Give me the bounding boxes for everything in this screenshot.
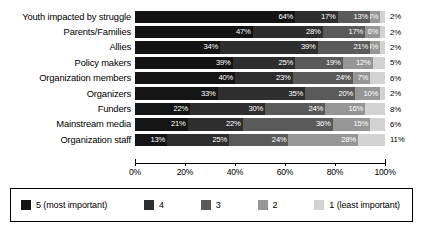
segment-value-label: 15% xyxy=(353,120,368,128)
legend-label: 4 xyxy=(159,200,164,210)
bar-segment: 28% xyxy=(253,26,323,38)
category-label: Policy makers xyxy=(0,58,135,68)
bar-segment: 4% xyxy=(370,11,380,23)
x-axis-tick-label: 40% xyxy=(227,167,244,177)
segment-value-label: 25% xyxy=(212,136,227,144)
segment-value-label: 30% xyxy=(248,105,263,113)
legend-item: 3 xyxy=(201,200,221,210)
bar-segment: 7% xyxy=(353,72,371,84)
legend-swatch xyxy=(21,200,31,210)
legend-item: 5 (most important) xyxy=(21,200,107,210)
segment-value-label: 22% xyxy=(173,105,188,113)
chart-row: Organization members40%23%24%7%6% xyxy=(0,71,423,86)
segment-value-label: 33% xyxy=(201,90,216,98)
x-axis-tick-label: 100% xyxy=(374,167,395,177)
bar-track: 34%39%21%4% xyxy=(135,41,385,53)
last-segment-value-label: 2% xyxy=(385,43,421,52)
segment-value-label: 24% xyxy=(272,136,287,144)
category-label: Organization staff xyxy=(0,135,135,145)
segment-value-label: 39% xyxy=(301,43,316,51)
bar-segment: 19% xyxy=(295,57,343,69)
bar-segment: 24% xyxy=(265,103,325,115)
bar-segment: 21% xyxy=(135,118,188,130)
bar-segment: 13% xyxy=(338,11,371,23)
legend-label: 5 (most important) xyxy=(36,200,107,210)
last-segment-value-label: 2% xyxy=(385,28,421,37)
bar-segment: 28% xyxy=(288,134,357,146)
x-axis-tick xyxy=(185,163,186,166)
bar-segment: 47% xyxy=(135,26,253,38)
bar-segment: 24% xyxy=(229,134,288,146)
bar-track: 21%22%36%15% xyxy=(135,118,385,130)
bar-segment xyxy=(380,41,385,53)
category-label: Parents/Families xyxy=(0,27,135,37)
segment-value-label: 17% xyxy=(321,13,336,21)
segment-value-label: 24% xyxy=(336,74,351,82)
stacked-bar-chart: Youth impacted by struggle64%17%13%4%2%P… xyxy=(0,0,423,231)
plot-area: Youth impacted by struggle64%17%13%4%2%P… xyxy=(0,9,423,148)
last-segment-value-label: 6% xyxy=(385,120,421,129)
x-axis-tick xyxy=(235,163,236,166)
bar-segment xyxy=(380,26,385,38)
x-axis-tick-label: 80% xyxy=(327,167,344,177)
bar-segment: 10% xyxy=(355,87,380,99)
segment-value-label: 25% xyxy=(278,59,293,67)
x-axis-tick xyxy=(335,163,336,166)
chart-row: Organizers33%35%20%10%2% xyxy=(0,86,423,101)
segment-value-label: 47% xyxy=(236,28,251,36)
bar-segment: 30% xyxy=(190,103,265,115)
bar-segment: 23% xyxy=(235,72,293,84)
category-label: Allies xyxy=(0,42,135,52)
category-label: Funders xyxy=(0,104,135,114)
segment-value-label: 64% xyxy=(278,13,293,21)
bar-segment: 21% xyxy=(318,41,371,53)
bar-segment xyxy=(380,87,385,99)
bar-segment: 17% xyxy=(323,26,366,38)
segment-value-label: 4% xyxy=(370,13,378,21)
bar-segment xyxy=(373,57,386,69)
segment-value-label: 4% xyxy=(370,43,378,51)
bar-segment: 15% xyxy=(333,118,371,130)
x-axis-end-cap xyxy=(135,159,136,164)
legend-item: 4 xyxy=(144,200,164,210)
segment-value-label: 12% xyxy=(356,59,371,67)
segment-value-label: 21% xyxy=(171,120,186,128)
segment-value-label: 35% xyxy=(288,90,303,98)
segment-value-label: 21% xyxy=(353,43,368,51)
bar-track: 13%25%24%28% xyxy=(135,134,385,146)
legend-item: 2 xyxy=(258,200,278,210)
segment-value-label: 13% xyxy=(151,136,166,144)
bar-segment: 25% xyxy=(167,134,229,146)
legend-label: 2 xyxy=(273,200,278,210)
segment-value-label: 13% xyxy=(353,13,368,21)
last-segment-value-label: 5% xyxy=(385,58,421,67)
bar-segment: 12% xyxy=(343,57,373,69)
x-axis-tick-label: 20% xyxy=(177,167,194,177)
x-axis: 0%20%40%60%80%100% xyxy=(0,163,423,185)
bar-track: 22%30%24%16% xyxy=(135,103,385,115)
bar-segment: 36% xyxy=(243,118,333,130)
segment-value-label: 17% xyxy=(348,28,363,36)
last-segment-value-label: 11% xyxy=(385,135,421,144)
segment-value-label: 28% xyxy=(306,28,321,36)
segment-value-label: 6% xyxy=(367,28,378,36)
category-label: Organization members xyxy=(0,73,135,83)
legend-swatch xyxy=(201,200,211,210)
last-segment-value-label: 8% xyxy=(385,105,421,114)
segment-value-label: 20% xyxy=(338,90,353,98)
segment-value-label: 23% xyxy=(276,74,291,82)
segment-value-label: 39% xyxy=(216,59,231,67)
segment-value-label: 36% xyxy=(316,120,331,128)
category-label: Mainstream media xyxy=(0,119,135,129)
segment-value-label: 34% xyxy=(203,43,218,51)
bar-segment xyxy=(358,134,385,146)
x-axis-tick xyxy=(285,163,286,166)
bar-segment: 13% xyxy=(135,134,167,146)
segment-value-label: 10% xyxy=(363,90,378,98)
legend-label: 3 xyxy=(216,200,221,210)
legend-label: 1 (least important) xyxy=(329,200,400,210)
bar-segment xyxy=(370,72,385,84)
bar-segment: 22% xyxy=(135,103,190,115)
bar-track: 40%23%24%7% xyxy=(135,72,385,84)
bar-segment: 4% xyxy=(370,41,380,53)
